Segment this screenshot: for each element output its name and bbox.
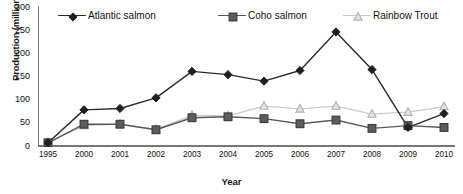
x-tick-label: 2008 <box>352 150 392 159</box>
y-tick-label: 0 <box>0 142 30 151</box>
x-tick-label: 2007 <box>316 150 356 159</box>
square-marker-icon <box>218 8 246 22</box>
x-tick-label: 2000 <box>64 150 104 159</box>
y-tick-label: 150 <box>0 72 30 81</box>
legend-label: Atlantic salmon <box>88 10 156 21</box>
triangle-marker-icon-glyph <box>352 11 364 23</box>
x-tick-label: 2001 <box>100 150 140 159</box>
square-marker <box>368 124 376 132</box>
x-tick-label: 1995 <box>28 150 68 159</box>
line-chart: Production (millions) 050100150200250300… <box>0 0 463 194</box>
y-tick-label: 200 <box>0 49 30 58</box>
diamond-marker-icon-glyph <box>67 11 79 23</box>
square-marker-icon-glyph <box>227 11 239 23</box>
legend-item-rainbow-trout[interactable]: Rainbow Trout <box>343 7 437 23</box>
y-tick-label: 50 <box>0 118 30 127</box>
square-marker <box>440 124 448 132</box>
x-tick-label: 2002 <box>136 150 176 159</box>
plot-area <box>38 6 455 147</box>
square-marker <box>260 115 268 123</box>
diamond-marker <box>69 13 77 21</box>
triangle-marker <box>440 102 448 110</box>
square-marker <box>296 120 304 128</box>
x-tick-label: 2005 <box>244 150 284 159</box>
square-marker <box>332 116 340 124</box>
square-marker <box>116 120 124 128</box>
x-tick-label: 2003 <box>172 150 212 159</box>
diamond-marker <box>224 71 232 79</box>
diamond-marker <box>260 77 268 85</box>
triangle-marker-icon <box>343 8 371 22</box>
legend-item-coho-salmon[interactable]: Coho salmon <box>218 7 307 23</box>
x-tick-label: 2009 <box>388 150 428 159</box>
triangle-marker <box>260 102 268 110</box>
legend-label: Rainbow Trout <box>373 10 437 21</box>
chart-legend: Atlantic salmonCoho salmonRainbow Trout <box>58 7 458 23</box>
square-marker <box>80 120 88 128</box>
triangle-marker <box>332 102 340 110</box>
square-marker <box>188 114 196 122</box>
square-marker <box>229 13 237 21</box>
series-coho-salmon <box>48 117 444 143</box>
diamond-marker <box>440 109 448 117</box>
x-tick-label: 2010 <box>424 150 463 159</box>
legend-item-atlantic-salmon[interactable]: Atlantic salmon <box>58 7 156 23</box>
x-tick-label: 2004 <box>208 150 248 159</box>
plot-svg <box>38 6 455 147</box>
diamond-marker-icon <box>58 8 86 22</box>
series-atlantic-salmon <box>48 32 444 143</box>
triangle-marker <box>354 13 362 21</box>
diamond-marker <box>116 104 124 112</box>
y-tick-label: 300 <box>0 3 30 12</box>
y-tick-label: 100 <box>0 95 30 104</box>
x-axis-title: Year <box>0 176 463 187</box>
square-marker <box>152 126 160 134</box>
y-tick-label: 250 <box>0 26 30 35</box>
markers-atlantic-salmon <box>44 28 448 147</box>
square-marker <box>224 113 232 121</box>
x-tick-label: 2006 <box>280 150 320 159</box>
legend-label: Coho salmon <box>248 10 307 21</box>
